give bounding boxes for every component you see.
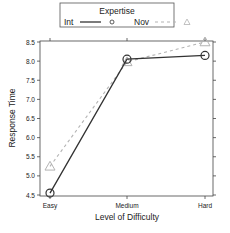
legend-label-int: Int [64,17,74,27]
x-tick-label: Hard [198,202,212,209]
series-layer [45,37,210,197]
y-tick-label: 8.0 [26,58,35,65]
chart-canvas: Expertise Int Nov 4.55.05.56.06.57.07.58… [0,0,230,233]
plot-frame [40,41,213,196]
series-line-nov [50,42,205,166]
interaction-plot: Expertise Int Nov 4.55.05.56.06.57.07.58… [0,0,230,233]
legend-title: Expertise [99,6,135,16]
y-tick-label: 7.5 [26,77,35,84]
y-axis-label: Response Time [7,88,17,147]
y-tick-label: 8.5 [26,39,35,46]
x-tick-label: Medium [115,202,138,209]
legend-triangle-icon [184,19,190,25]
y-tick-label: 6.0 [26,134,35,141]
y-tick-label: 5.5 [26,153,35,160]
x-axis-label: Level of Difficulty [95,212,160,222]
legend: Expertise Int Nov [60,3,190,27]
y-tick-label: 4.5 [26,192,35,199]
series-line-int [50,55,205,193]
y-tick-label: 5.0 [26,172,35,179]
legend-label-nov: Nov [134,17,150,27]
x-axis: EasyMediumHard [43,38,213,210]
y-axis: 4.55.05.56.06.57.07.58.08.5 [26,39,216,199]
y-tick-label: 7.0 [26,96,35,103]
y-tick-label: 6.5 [26,115,35,122]
x-tick-label: Easy [43,202,58,210]
